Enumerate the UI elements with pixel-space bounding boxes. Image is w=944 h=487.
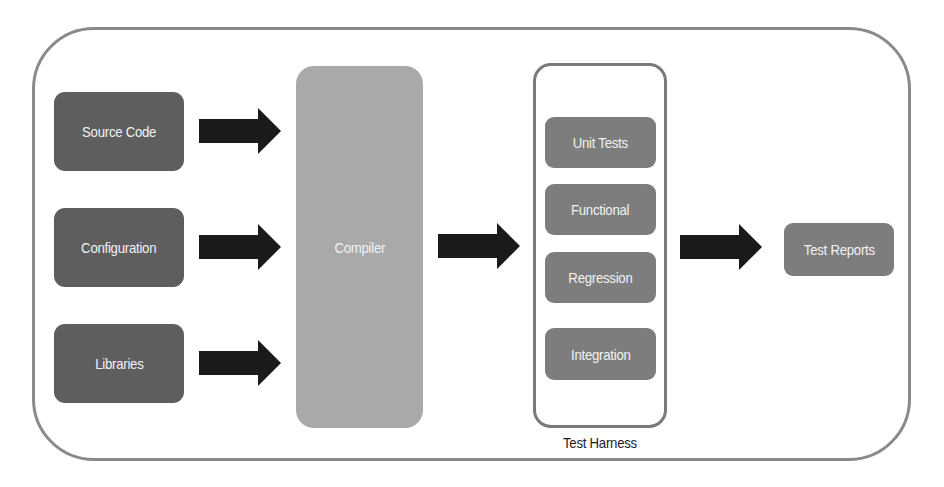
libraries-label: Libraries [95, 355, 143, 372]
compiler-label: Compiler [334, 239, 385, 256]
unit-tests-label: Unit Tests [573, 134, 628, 151]
configuration-label: Configuration [81, 239, 156, 256]
test-harness-label: Test Harness [533, 434, 667, 451]
functional-tests-node: Functional [545, 184, 656, 235]
arrow-right-icon [438, 223, 520, 269]
test-reports-node: Test Reports [784, 223, 894, 276]
compiler-node: Compiler [296, 66, 423, 428]
functional-tests-label: Functional [571, 201, 629, 218]
libraries-node: Libraries [54, 324, 184, 403]
source-code-label: Source Code [82, 123, 156, 140]
configuration-node: Configuration [54, 208, 184, 287]
integration-tests-label: Integration [571, 346, 630, 363]
unit-tests-node: Unit Tests [545, 117, 656, 168]
regression-tests-node: Regression [545, 252, 656, 303]
integration-tests-node: Integration [545, 328, 656, 380]
arrow-right-icon [199, 108, 281, 154]
arrow-right-icon [199, 224, 281, 270]
regression-tests-label: Regression [568, 269, 632, 286]
arrow-right-icon [680, 224, 762, 270]
arrow-right-icon [199, 340, 281, 386]
source-code-node: Source Code [54, 92, 184, 171]
test-reports-label: Test Reports [804, 241, 875, 258]
